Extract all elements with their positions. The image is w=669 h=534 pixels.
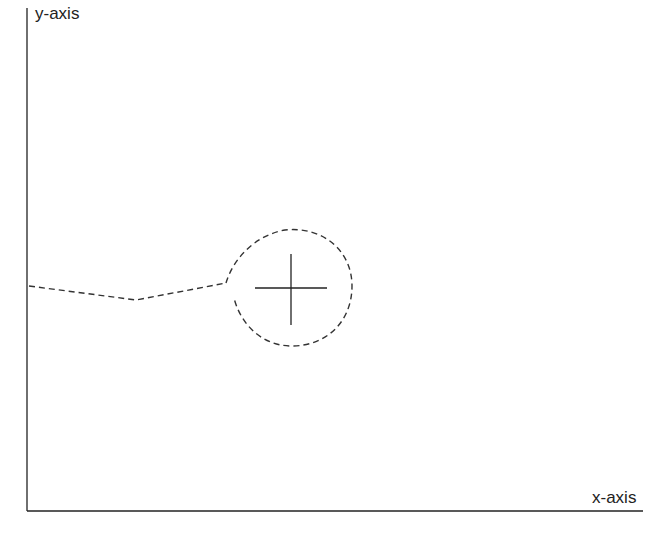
x-axis-label: x-axis — [592, 488, 636, 508]
trajectory-dashed-path — [29, 283, 226, 300]
y-axis-label: y-axis — [35, 4, 79, 24]
diagram-canvas — [0, 0, 669, 534]
